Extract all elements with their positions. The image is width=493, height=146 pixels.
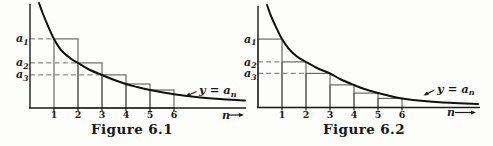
x-axis-label-n: n xyxy=(447,106,455,119)
x-tick-label: 2 xyxy=(303,109,310,120)
figure-6-2-caption: Figure 6.2 xyxy=(323,121,405,137)
x-tick-label: 1 xyxy=(51,109,58,120)
riemann-rectangle xyxy=(378,98,402,107)
x-tick-label: 6 xyxy=(171,109,178,120)
x-tick-label: 6 xyxy=(399,109,406,120)
curve-label: y = an xyxy=(198,83,237,99)
x-tick-label: 4 xyxy=(123,109,130,120)
figure-6-1-caption: Figure 6.1 xyxy=(91,121,173,137)
textbook-figures-panel: 123456a1a2a3y = ann123456a1a2a3y = ann F… xyxy=(0,0,493,146)
x-axis-arrow xyxy=(229,113,244,117)
x-axis-label-n: n xyxy=(222,109,230,122)
x-tick-label: 4 xyxy=(351,109,358,120)
figures-canvas: 123456a1a2a3y = ann123456a1a2a3y = ann xyxy=(0,0,493,146)
riemann-rectangle xyxy=(54,39,78,108)
curve-label: y = an xyxy=(436,82,475,98)
x-tick-label: 2 xyxy=(75,109,82,120)
plot-2: 123456a1a2a3y = ann xyxy=(244,5,480,120)
x-tick-label: 5 xyxy=(147,109,154,120)
x-tick-label: 3 xyxy=(327,109,334,120)
plot-1: 123456a1a2a3y = ann xyxy=(16,3,246,122)
riemann-rectangle xyxy=(282,62,306,108)
riemann-rectangle xyxy=(330,85,354,108)
riemann-rectangle xyxy=(306,73,330,107)
riemann-rectangle xyxy=(354,93,378,107)
y-value-label-a1: a1 xyxy=(244,33,257,48)
curve-label-arrow xyxy=(424,90,435,96)
y-value-label-a1: a1 xyxy=(16,32,29,47)
x-tick-label: 3 xyxy=(99,109,106,120)
x-tick-label: 1 xyxy=(279,109,286,120)
x-tick-label: 5 xyxy=(375,109,382,120)
x-axis-arrow xyxy=(455,110,476,114)
